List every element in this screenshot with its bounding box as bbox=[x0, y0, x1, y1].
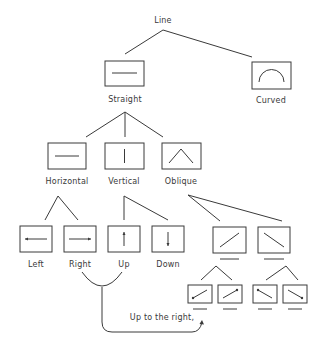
root-label: Line bbox=[154, 16, 171, 25]
curved-box bbox=[252, 62, 291, 89]
falling-b-icon bbox=[288, 290, 302, 298]
down-label: Down bbox=[156, 260, 179, 269]
falling-a-dot bbox=[257, 289, 259, 291]
edge-horizontal-right bbox=[58, 196, 78, 220]
edge-rising-a bbox=[201, 266, 216, 280]
combine-arc bbox=[82, 272, 122, 286]
rising-diagonal-icon bbox=[220, 233, 239, 247]
right-label: Right bbox=[69, 260, 91, 269]
falling-a-icon bbox=[258, 290, 272, 298]
falling-b-dot bbox=[301, 297, 303, 299]
edge-line-straight bbox=[125, 30, 163, 54]
up-arrowhead bbox=[123, 232, 126, 235]
rising-a-icon bbox=[193, 290, 207, 298]
edge-oblique-rising bbox=[188, 195, 220, 221]
oblique-label: Oblique bbox=[165, 177, 197, 186]
edge-straight-oblique bbox=[125, 112, 163, 137]
edge-horizontal-left bbox=[45, 196, 58, 220]
edge-straight-horizontal bbox=[86, 112, 125, 137]
down-arrowhead bbox=[167, 243, 170, 246]
left-label: Left bbox=[28, 260, 44, 269]
edge-vertical-down bbox=[124, 196, 168, 220]
edge-falling-a bbox=[266, 266, 286, 280]
oblique-box bbox=[162, 143, 201, 169]
up-label: Up bbox=[118, 260, 129, 269]
combine-arrow-path bbox=[102, 287, 202, 332]
edge-rising-b bbox=[216, 266, 232, 280]
edge-line-curved bbox=[163, 30, 252, 57]
right-arrowhead bbox=[88, 238, 91, 241]
left-arrowhead bbox=[25, 238, 28, 241]
horizontal-label: Horizontal bbox=[46, 177, 89, 186]
rising-b-icon bbox=[223, 290, 237, 298]
falling-diagonal-icon bbox=[264, 233, 284, 247]
rising-b-dot bbox=[236, 289, 238, 291]
caret-icon bbox=[169, 149, 193, 163]
straight-label: Straight bbox=[108, 95, 142, 104]
arc-icon bbox=[259, 70, 284, 83]
edge-falling-b bbox=[286, 266, 298, 280]
curved-label: Curved bbox=[256, 96, 286, 105]
combine-arrowhead-icon bbox=[200, 320, 205, 325]
up-to-the-right-label: Up to the right, bbox=[130, 313, 194, 322]
rising-a-dot bbox=[192, 297, 194, 299]
vertical-label: Vertical bbox=[108, 177, 140, 186]
edge-oblique-falling bbox=[188, 195, 282, 221]
